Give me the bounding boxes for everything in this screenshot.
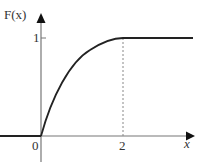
cdf-chart: F(x) 1 0 2 x [0, 0, 199, 168]
x-axis-label: x [183, 136, 190, 151]
y-tick-label-1: 1 [33, 30, 40, 45]
y-axis-label: F(x) [4, 7, 26, 22]
x-tick-label-2: 2 [119, 138, 126, 153]
curve-rising [41, 38, 123, 136]
y-axis-arrow-icon [37, 13, 46, 23]
origin-label: 0 [32, 138, 39, 153]
